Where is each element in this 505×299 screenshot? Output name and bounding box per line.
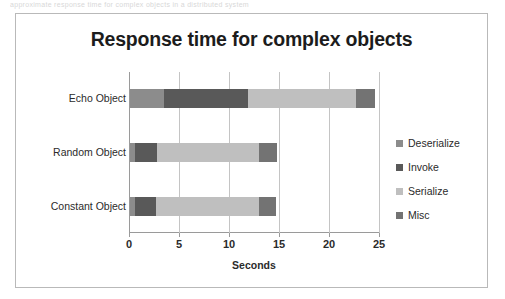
bar-row[interactable]: [130, 197, 276, 216]
x-axis-tick-label: 15: [273, 238, 285, 250]
legend-swatch-icon: [396, 188, 403, 195]
gridline: [379, 72, 380, 233]
bar-segment-misc[interactable]: [259, 197, 276, 216]
plot-area: [129, 72, 379, 233]
x-axis-tick-mark: [179, 233, 180, 237]
legend-label: Invoke: [408, 161, 439, 173]
y-axis-category-label: Random Object: [53, 146, 126, 158]
bar-row[interactable]: [130, 143, 277, 162]
legend-label: Deserialize: [408, 137, 460, 149]
chart-frame: Response time for complex objects Echo O…: [15, 13, 488, 288]
bar-segment-serialize[interactable]: [157, 143, 260, 162]
x-axis-tick-mark: [279, 233, 280, 237]
bar-segment-misc[interactable]: [356, 89, 375, 108]
bar-segment-deserialize[interactable]: [130, 89, 164, 108]
x-axis-tick-mark: [329, 233, 330, 237]
legend-swatch-icon: [396, 140, 403, 147]
chart-title: Response time for complex objects: [16, 28, 487, 51]
bar-segment-serialize[interactable]: [156, 197, 259, 216]
legend-item-invoke[interactable]: Invoke: [396, 157, 488, 177]
y-axis-category-labels: Echo ObjectRandom ObjectConstant Object: [8, 72, 126, 233]
legend-swatch-icon: [396, 164, 403, 171]
legend-label: Misc: [408, 209, 430, 221]
legend-swatch-icon: [396, 212, 403, 219]
x-axis-tick-label: 5: [176, 238, 182, 250]
legend-item-deserialize[interactable]: Deserialize: [396, 133, 488, 153]
bar-row[interactable]: [130, 89, 375, 108]
scan-artifact-text: approximate response time for complex ob…: [10, 0, 430, 9]
x-axis-tick-label: 10: [223, 238, 235, 250]
x-axis-title: Seconds: [129, 259, 379, 271]
x-axis-tick-mark: [229, 233, 230, 237]
legend-item-misc[interactable]: Misc: [396, 205, 488, 225]
x-axis-tick-label: 0: [126, 238, 132, 250]
x-axis-tick-mark: [129, 233, 130, 237]
y-axis-category-label: Constant Object: [51, 200, 126, 212]
x-axis-line: [129, 232, 379, 233]
x-axis-tick-mark: [379, 233, 380, 237]
bar-segment-misc[interactable]: [259, 143, 277, 162]
bar-segment-invoke[interactable]: [135, 197, 156, 216]
x-axis-tick-labels: 0510152025: [129, 238, 379, 254]
bar-segment-invoke[interactable]: [135, 143, 157, 162]
bar-segment-serialize[interactable]: [248, 89, 356, 108]
legend-item-serialize[interactable]: Serialize: [396, 181, 488, 201]
x-axis-tick-label: 20: [323, 238, 335, 250]
chart-legend: DeserializeInvokeSerializeMisc: [396, 133, 488, 229]
bar-segment-invoke[interactable]: [164, 89, 248, 108]
y-axis-category-label: Echo Object: [69, 92, 126, 104]
x-axis-tick-label: 25: [373, 238, 385, 250]
legend-label: Serialize: [408, 185, 448, 197]
